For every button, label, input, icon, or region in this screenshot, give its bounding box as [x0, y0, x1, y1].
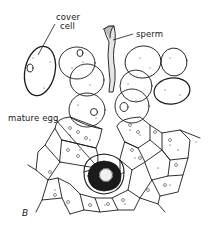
venter — [84, 154, 124, 194]
panel-label: B — [22, 208, 28, 218]
label-mature-egg: mature egg — [8, 114, 58, 123]
cover-cell-leader — [38, 24, 55, 55]
archegonium-diagram: cover cell sperm mature egg B — [0, 0, 211, 231]
label-cover-line2: cell — [60, 22, 75, 31]
sperm-leader — [113, 34, 133, 40]
sperm-drawing — [104, 26, 115, 92]
label-sperm: sperm — [136, 30, 163, 39]
